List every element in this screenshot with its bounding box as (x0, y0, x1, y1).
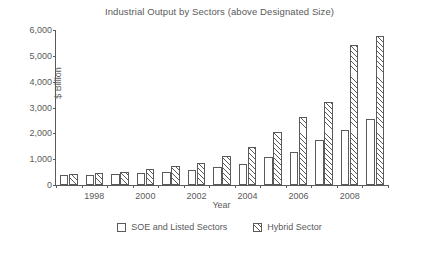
y-tick-label: 1,000 (29, 154, 52, 164)
y-tick-label: 6,000 (29, 25, 52, 35)
bar (188, 170, 197, 186)
bar (350, 45, 359, 185)
y-tick-label: 4,000 (29, 77, 52, 87)
x-tick-mark (235, 185, 236, 188)
bar (341, 130, 350, 185)
bar (264, 157, 273, 185)
bar (324, 102, 333, 185)
y-tick-mark (53, 108, 56, 109)
x-tick-mark (362, 185, 363, 188)
legend-swatch-icon (117, 223, 126, 232)
bar (162, 172, 171, 185)
bar (290, 152, 299, 185)
legend-item[interactable]: SOE and Listed Sectors (117, 222, 227, 232)
y-tick-mark (53, 133, 56, 134)
x-tick-mark (82, 185, 83, 188)
bar (120, 172, 129, 185)
bar (69, 174, 78, 185)
bar (137, 173, 146, 185)
bar (60, 175, 69, 185)
y-tick-mark (53, 82, 56, 83)
bar (222, 156, 231, 185)
legend-label: SOE and Listed Sectors (131, 222, 227, 232)
bar (273, 132, 282, 185)
x-axis-label: Year (55, 200, 388, 210)
legend-swatch-icon (253, 223, 262, 232)
x-tick-mark (184, 185, 185, 188)
bar (86, 175, 95, 185)
x-tick-mark (56, 185, 57, 188)
chart-container: Industrial Output by Sectors (above Desi… (0, 0, 439, 253)
legend-label: Hybrid Sector (267, 222, 322, 232)
bar (111, 174, 120, 185)
y-axis-label: $ Billion (53, 38, 63, 128)
x-tick-mark (107, 185, 108, 188)
y-tick-label: 2,000 (29, 128, 52, 138)
x-tick-mark (133, 185, 134, 188)
chart-title: Industrial Output by Sectors (above Desi… (0, 6, 439, 17)
bar (315, 140, 324, 185)
bar (299, 117, 308, 185)
x-tick-mark (337, 185, 338, 188)
x-tick-mark (311, 185, 312, 188)
bar (376, 36, 385, 185)
x-tick-mark (286, 185, 287, 188)
chart-legend: SOE and Listed SectorsHybrid Sector (0, 222, 439, 232)
x-tick-mark (209, 185, 210, 188)
x-tick-mark (158, 185, 159, 188)
y-tick-mark (53, 30, 56, 31)
bar (197, 163, 206, 185)
legend-item[interactable]: Hybrid Sector (253, 222, 322, 232)
bar (95, 173, 104, 185)
bar (239, 164, 248, 185)
plot-area: $ Billion 01,0002,0003,0004,0005,0006,00… (55, 30, 388, 186)
bar (171, 166, 180, 185)
x-tick-mark (260, 185, 261, 188)
bar (146, 169, 155, 185)
bar (366, 119, 375, 185)
y-tick-mark (53, 159, 56, 160)
y-tick-label: 0 (47, 180, 52, 190)
bar (213, 167, 222, 185)
x-tick-mark (388, 185, 389, 188)
y-tick-label: 5,000 (29, 51, 52, 61)
y-tick-mark (53, 56, 56, 57)
y-tick-label: 3,000 (29, 103, 52, 113)
bar (248, 147, 257, 185)
